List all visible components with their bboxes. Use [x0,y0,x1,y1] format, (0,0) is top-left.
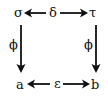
commutative-diagram: σ τ a b δ ε ϕ ϕ [0,0,108,100]
node-b: b [91,77,99,92]
left-edge: ϕ [9,25,26,73]
bottom-edge: ε [27,76,90,91]
edge-label-phi-left: ϕ [9,37,18,52]
node-tau: τ [89,5,96,20]
edge-label-phi-right: ϕ [84,37,93,52]
edge-label-epsilon: ε [54,76,61,91]
node-a: a [16,77,24,92]
top-edge: δ [24,5,88,20]
edge-label-delta: δ [49,5,57,20]
node-sigma: σ [14,5,23,20]
right-edge: ϕ [84,25,101,73]
